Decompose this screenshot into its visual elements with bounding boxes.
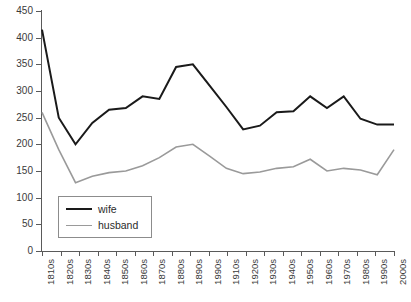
legend: wife husband	[58, 196, 152, 238]
legend-item-wife: wife	[66, 202, 117, 216]
series-line-wife	[42, 30, 394, 145]
series-line-husband	[42, 112, 394, 182]
series-layer	[0, 0, 411, 302]
legend-label-wife: wife	[98, 203, 117, 215]
legend-label-husband: husband	[98, 219, 138, 231]
legend-swatch-wife-icon	[66, 208, 92, 210]
legend-item-husband: husband	[66, 218, 138, 232]
legend-swatch-husband-icon	[66, 225, 92, 226]
plot-area: 450400350300250200150100500 1810s1820s18…	[0, 0, 411, 302]
line-chart: 450400350300250200150100500 1810s1820s18…	[0, 0, 411, 302]
